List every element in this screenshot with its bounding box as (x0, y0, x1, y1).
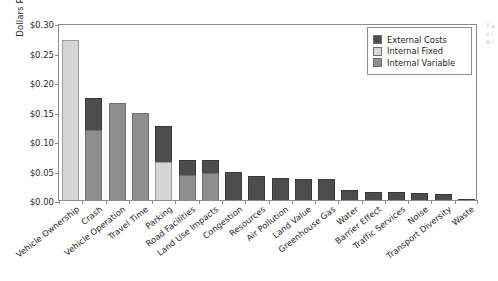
legend-swatch-icon (373, 35, 382, 44)
bar-segment-internal-fixed (62, 40, 79, 200)
bar-segment-external-costs (179, 160, 196, 174)
bar-segment-internal-fixed (155, 162, 172, 200)
y-tick-label: $0.00 (30, 197, 54, 207)
y-tick-label: $0.25 (30, 50, 54, 60)
x-tick-mark (59, 200, 60, 204)
bar-travel-time (132, 113, 149, 200)
bar-segment-external-costs (388, 192, 405, 200)
bar-air-pollution (272, 178, 289, 200)
bar-segment-internal-variable (202, 173, 219, 200)
y-tick-label: $0.30 (30, 20, 54, 30)
bar-congestion (225, 172, 242, 200)
legend-swatch-icon (373, 58, 382, 67)
bar-barrier-effect (365, 192, 382, 200)
x-tick-mark (82, 200, 83, 204)
bar-greenhouse-gas (318, 179, 335, 200)
bar-segment-external-costs (411, 193, 428, 200)
bar-segment-external-costs (155, 126, 172, 162)
bar-segment-internal-variable (179, 175, 196, 200)
x-tick-mark (222, 200, 223, 204)
x-tick-mark (385, 200, 386, 204)
bar-segment-external-costs (272, 178, 289, 200)
legend-item: Internal Variable (373, 58, 465, 68)
bar-resources (248, 176, 265, 200)
legend-label: Internal Variable (387, 58, 455, 68)
chart-figure: Dollars Per Vehicle Mile $0.00$0.05$0.10… (0, 0, 498, 281)
bar-vehicle-ownership (62, 40, 79, 200)
legend-item: Internal Fixed (373, 46, 465, 56)
legend-swatch-icon (373, 47, 382, 56)
x-tick-mark (129, 200, 130, 204)
y-tick-label: $0.10 (30, 138, 54, 148)
bar-segment-external-costs (295, 179, 312, 200)
x-tick-mark (315, 200, 316, 204)
x-tick-mark (175, 200, 176, 204)
x-tick-mark (477, 200, 478, 204)
bar-crash (85, 98, 102, 200)
x-axis-label: Waste (450, 204, 476, 228)
bar-vehicle-operation (109, 103, 126, 200)
y-tick-label: $0.15 (30, 109, 54, 119)
bar-segment-internal-variable (85, 130, 102, 200)
bar-land-value (295, 179, 312, 200)
x-tick-mark (362, 200, 363, 204)
x-tick-mark (199, 200, 200, 204)
bar-land-use-impacts (202, 160, 219, 200)
bar-segment-internal-variable (132, 113, 149, 200)
x-tick-mark (106, 200, 107, 204)
bar-segment-internal-variable (109, 103, 126, 200)
bar-noise (411, 193, 428, 200)
x-tick-mark (455, 200, 456, 204)
page-edge-bleed-text: T e v ( A l (486, 22, 498, 112)
bar-road-facilities (179, 160, 196, 200)
bar-transport-diversity (435, 194, 452, 200)
bar-segment-external-costs (225, 172, 242, 200)
x-tick-mark (338, 200, 339, 204)
y-tick-label: $0.20 (30, 79, 54, 89)
bar-water (341, 190, 358, 200)
bar-segment-external-costs (318, 179, 335, 200)
y-axis-title: Dollars Per Vehicle Mile (15, 0, 25, 61)
legend-item: External Costs (373, 35, 465, 45)
bar-segment-external-costs (365, 192, 382, 200)
bar-segment-external-costs (248, 176, 265, 200)
legend-label: Internal Fixed (387, 46, 443, 56)
x-tick-mark (152, 200, 153, 204)
bar-segment-external-costs (458, 199, 475, 200)
bar-waste (458, 199, 475, 200)
x-tick-mark (431, 200, 432, 204)
chart-legend: External CostsInternal FixedInternal Var… (367, 27, 472, 75)
x-tick-mark (292, 200, 293, 204)
x-tick-mark (245, 200, 246, 204)
bar-segment-external-costs (435, 194, 452, 200)
bar-segment-external-costs (341, 190, 358, 200)
bar-segment-external-costs (202, 160, 219, 173)
x-tick-mark (269, 200, 270, 204)
bar-parking (155, 126, 172, 200)
x-tick-mark (408, 200, 409, 204)
legend-label: External Costs (387, 35, 447, 45)
y-tick-label: $0.05 (30, 168, 54, 178)
bar-segment-external-costs (85, 98, 102, 130)
bar-traffic-services (388, 192, 405, 200)
